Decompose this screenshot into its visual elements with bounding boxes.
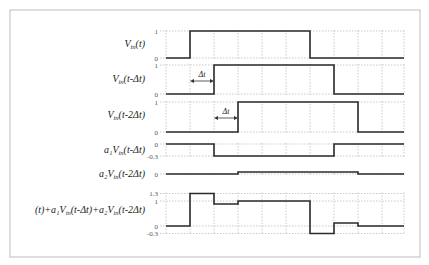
tick-label: -0.3 (147, 230, 159, 238)
tick-label: 0 (155, 171, 159, 179)
tick-label: 1 (155, 28, 159, 36)
signal-label-a2-vin-t-minus-2dt: a₂Vin(t-2Δt) (99, 168, 146, 180)
delta-t-label: Δt (222, 107, 231, 116)
timing-diagram: Vin(t)Vin(t-Δt)Vin(t-2Δt)a₁Vin(t-Δt)a₂Vi… (0, 0, 429, 265)
figure-frame (10, 10, 420, 257)
tick-label: -0.3 (147, 153, 159, 161)
tick-label: 1 (155, 99, 159, 107)
tick-label: 0 (155, 91, 159, 99)
tick-label: 1 (155, 62, 159, 70)
signal-label-vin-t: Vin(t) (124, 38, 145, 50)
tick-label: 0 (155, 141, 159, 149)
signal-label-sum-output: (t)+a₁Vin(t-Δt)+a₂Vin(t-2Δt) (35, 204, 146, 216)
signal-label-vin-t-minus-2dt: Vin(t-2Δt) (107, 109, 145, 121)
tick-label: 0 (155, 129, 159, 137)
signal-label-vin-t-minus-dt: Vin(t-Δt) (112, 73, 145, 85)
signal-label-a1-vin-t-minus-dt: a₁Vin(t-Δt) (104, 144, 146, 156)
tick-label: 1 (155, 198, 159, 206)
delta-t-label: Δt (198, 70, 207, 79)
